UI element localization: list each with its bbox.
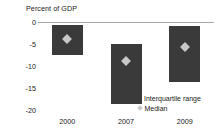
x-axis-tick-label: 2009	[177, 117, 193, 126]
legend-item: Median	[137, 103, 201, 113]
legend-item-label: Median	[145, 105, 168, 112]
legend-item: Interquartile range	[137, 93, 201, 103]
legend-item-label: Interquartile range	[144, 95, 201, 102]
x-axis-tick-label: 2000	[59, 117, 75, 126]
y-axis-ticks: 0-5-10-15-20	[0, 0, 36, 136]
interquartile-range-bar	[169, 26, 200, 82]
y-axis-tick-label: -5	[2, 40, 36, 49]
legend-diamond-icon	[137, 105, 143, 111]
legend: Interquartile rangeMedian	[137, 93, 201, 113]
x-axis-tick-label: 2007	[118, 117, 134, 126]
y-axis-tick-label: -20	[2, 106, 36, 115]
y-axis-tick-label: -10	[2, 62, 36, 71]
y-axis-tick-label: -15	[2, 84, 36, 93]
chart-container: Percent of GDP 0-5-10-15-20 200020072009…	[0, 0, 220, 136]
y-axis-tick-label: 0	[2, 18, 36, 27]
legend-square-icon	[137, 96, 142, 101]
